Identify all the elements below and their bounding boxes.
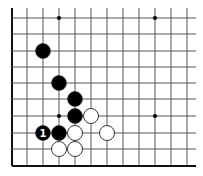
black-stone-icon xyxy=(68,92,83,107)
white-stone xyxy=(100,126,115,141)
white-stone-icon xyxy=(68,142,83,157)
white-stone xyxy=(68,142,83,157)
star-point-icon xyxy=(153,114,157,118)
white-stone xyxy=(68,126,83,141)
white-stone xyxy=(84,109,99,124)
go-board: 1 xyxy=(0,0,203,176)
white-stone-icon xyxy=(52,142,67,157)
white-stone-icon xyxy=(100,126,115,141)
star-point-icon xyxy=(57,16,61,20)
star-point-icon xyxy=(57,114,61,118)
white-stone xyxy=(52,142,67,157)
star-point-icon xyxy=(153,16,157,20)
black-stone xyxy=(36,44,51,59)
black-stone xyxy=(52,76,67,91)
black-stone-icon xyxy=(52,126,67,141)
board-grid xyxy=(12,8,196,166)
black-stone-icon xyxy=(52,76,67,91)
black-stone-icon xyxy=(36,44,51,59)
black-stone xyxy=(52,126,67,141)
white-stone-icon xyxy=(68,126,83,141)
black-stone: 1 xyxy=(36,126,51,141)
black-stone xyxy=(68,109,83,124)
black-stone-icon xyxy=(68,109,83,124)
move-number-label: 1 xyxy=(40,128,47,139)
black-stone xyxy=(68,92,83,107)
white-stone-icon xyxy=(84,109,99,124)
